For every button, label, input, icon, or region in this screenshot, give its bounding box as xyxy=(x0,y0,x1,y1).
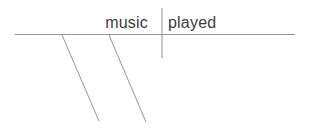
sentence-diagram: music played xyxy=(0,0,313,131)
subject-word: music xyxy=(105,14,148,31)
modifier-slant-line-1 xyxy=(62,35,99,121)
modifier-slant-line-2 xyxy=(109,35,146,122)
sentence-diagram-svg: music played xyxy=(0,0,313,131)
verb-word: played xyxy=(168,14,216,31)
